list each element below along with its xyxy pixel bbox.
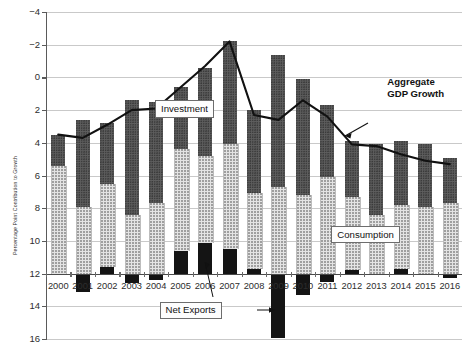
bar-consumption-2001	[76, 207, 92, 274]
y-tick-mark-10	[42, 110, 47, 111]
bar-consumption-2016	[443, 203, 459, 273]
x-tick-mark-3	[119, 272, 120, 277]
bar-investment-2008	[247, 110, 261, 193]
y-tick-mark-8	[42, 143, 47, 144]
y-tick-mark-14	[42, 45, 47, 46]
y-tick-label--4: 16	[18, 334, 40, 344]
x-tick-mark-6	[193, 272, 194, 277]
bar-investment-2013	[369, 144, 383, 214]
y-tick-label-10: 2	[18, 105, 40, 115]
bar-investment-2001	[76, 120, 90, 207]
bar-investment-2007	[223, 41, 237, 144]
y-tick-mark--2	[42, 306, 47, 307]
bar-netexports-2006	[198, 243, 212, 274]
x-tick-mark-15	[413, 272, 414, 277]
gridline--4	[46, 339, 462, 340]
x-tick-mark-2	[95, 272, 96, 277]
bar-investment-2015	[418, 144, 432, 206]
bar-netexports-2007	[223, 249, 237, 274]
bar-investment-2000	[51, 135, 65, 166]
bar-investment-2011	[320, 105, 334, 177]
bar-consumption-2013	[369, 215, 385, 274]
aggregate-gdp-growth-annotation: Aggregate GDP Growth	[387, 76, 444, 101]
y-tick-label--2: 14	[18, 301, 40, 311]
y-tick-label-16: −4	[18, 7, 40, 17]
bar-netexports-2005	[174, 251, 188, 274]
consumption-callout: Consumption	[331, 226, 400, 243]
gdp-annotation-line2: GDP Growth	[387, 88, 444, 100]
y-tick-label-12: 0	[18, 72, 40, 82]
zero-baseline	[46, 274, 462, 275]
y-tick-label-14: −2	[18, 40, 40, 50]
y-tick-mark-2	[42, 241, 47, 242]
bar-investment-2003	[125, 100, 139, 214]
y-tick-label-6: 6	[18, 171, 40, 181]
gdp-growth-contribution-chart: Percentage Point Contribution to Growth …	[0, 0, 472, 355]
bar-consumption-2007	[223, 144, 239, 249]
bar-consumption-2008	[247, 193, 263, 268]
x-tick-mark-9	[266, 272, 267, 277]
bar-investment-2010	[296, 79, 310, 195]
gdp-annotation-leader	[345, 123, 368, 139]
gridline-14	[46, 45, 462, 46]
bar-consumption-2004	[149, 203, 165, 273]
bar-investment-2016	[443, 158, 457, 204]
x-tick-mark-7	[217, 272, 218, 277]
investment-callout: Investment	[155, 100, 214, 117]
x-tick-label-2016: 2016	[433, 282, 467, 291]
bar-consumption-2002	[100, 184, 116, 267]
bar-investment-2012	[345, 141, 359, 197]
y-tick-label-0: 12	[18, 269, 40, 279]
x-tick-mark-0	[46, 272, 47, 277]
y-tick-mark-16	[42, 12, 47, 13]
y-tick-mark-6	[42, 176, 47, 177]
y-tick-label-8: 4	[18, 138, 40, 148]
bar-consumption-2011	[320, 177, 336, 273]
bar-netexports-2002	[100, 267, 114, 274]
net-exports-callout: Net Exports	[160, 302, 222, 319]
bar-investment-2002	[100, 123, 114, 183]
bar-consumption-2000	[51, 166, 67, 274]
gridline--2	[46, 306, 462, 307]
x-tick-mark-8	[242, 272, 243, 277]
x-tick-mark-13	[364, 272, 365, 277]
x-tick-mark-14	[389, 272, 390, 277]
bar-consumption-2015	[418, 207, 434, 274]
y-tick-mark--4	[42, 339, 47, 340]
x-tick-mark-11	[315, 272, 316, 277]
y-tick-label-2: 10	[18, 236, 40, 246]
y-tick-mark-12	[42, 77, 47, 78]
x-tick-mark-1	[70, 272, 71, 277]
gdp-annotation-line1: Aggregate	[387, 76, 444, 88]
x-tick-mark-4	[144, 272, 145, 277]
x-tick-mark-5	[168, 272, 169, 277]
bar-investment-2014	[394, 141, 408, 205]
y-tick-mark-4	[42, 208, 47, 209]
bar-consumption-2006	[198, 156, 214, 243]
bar-consumption-2005	[174, 149, 190, 250]
bar-consumption-2010	[296, 195, 312, 273]
bar-consumption-2003	[125, 215, 141, 274]
y-tick-label-4: 8	[18, 203, 40, 213]
x-tick-mark-16	[438, 272, 439, 277]
x-tick-mark-12	[340, 272, 341, 277]
bar-investment-2005	[174, 87, 188, 149]
bar-investment-2009	[271, 55, 285, 187]
gridline-16	[46, 12, 462, 13]
bar-consumption-2009	[271, 187, 287, 274]
x-tick-mark-10	[291, 272, 292, 277]
